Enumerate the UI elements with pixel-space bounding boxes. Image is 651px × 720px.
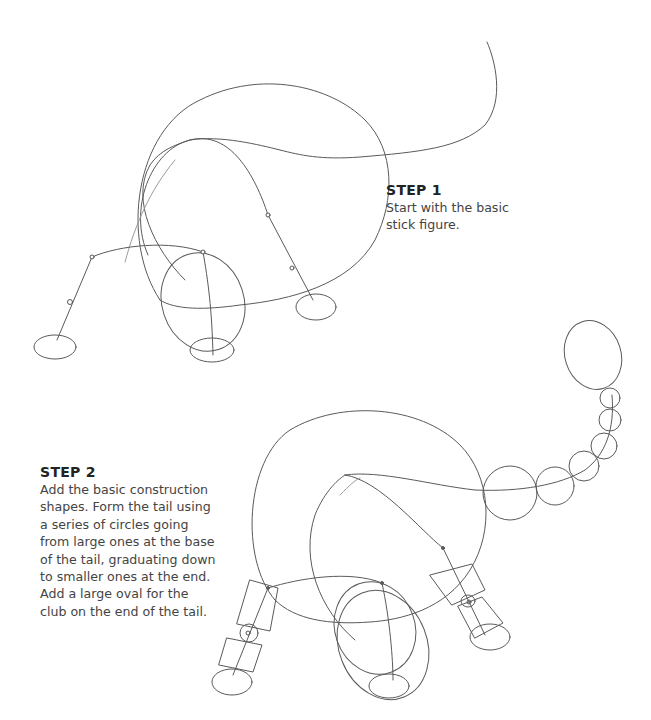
step-2-text-line: shapes. Form the tail using: [40, 498, 240, 515]
step-2-text-line: from large ones at the base: [40, 533, 240, 550]
neck-arch: [345, 475, 443, 548]
step-2-caption: STEP 2 Add the basic construction shapes…: [40, 464, 240, 620]
tail-circle-1: [483, 466, 537, 520]
step-2-text-line: of the tail, graduating down: [40, 551, 240, 568]
tail-club-oval: [556, 313, 631, 397]
front-foot: [212, 669, 252, 695]
mid-leg-stick: [203, 252, 213, 355]
step-1-text-line: stick figure.: [386, 216, 556, 233]
step-2-title: STEP 2: [40, 464, 240, 480]
head-curve: [310, 475, 355, 640]
step-1-text-line: Start with the basic: [386, 199, 556, 216]
tail-circle-4: [591, 433, 617, 459]
neck-line: [140, 139, 268, 255]
body-circle: [138, 84, 389, 308]
back-leg-stick: [268, 215, 313, 300]
step-2-text-line: Add the basic construction: [40, 481, 240, 498]
step-1-caption: STEP 1 Start with the basic stick figure…: [386, 182, 556, 234]
tail-circle-5: [599, 409, 621, 431]
head-curve: [143, 140, 190, 280]
front-foot: [34, 335, 76, 359]
front-leg-stick: [57, 257, 92, 340]
front-lower-cylinder: [219, 638, 262, 672]
step-2-text-line: club on the end of the tail.: [40, 603, 240, 620]
head-oval: [149, 242, 258, 362]
step-2-text-line: to smaller ones at the end.: [40, 568, 240, 585]
step-1-title: STEP 1: [386, 182, 556, 198]
step-2-text-line: a series of circles going: [40, 516, 240, 533]
back-lower-cylinder: [458, 597, 503, 638]
front-upper-cylinder: [237, 580, 278, 631]
head-oval-front: [321, 577, 445, 714]
tail-line: [190, 42, 497, 158]
mid-foot: [369, 674, 409, 698]
mid-leg-stick: [382, 583, 393, 680]
step-2-construction-shapes: [212, 313, 630, 713]
tail-circle-6: [600, 388, 620, 408]
step-2-text-line: Add a large oval for the: [40, 585, 240, 602]
back-foot: [296, 294, 336, 320]
